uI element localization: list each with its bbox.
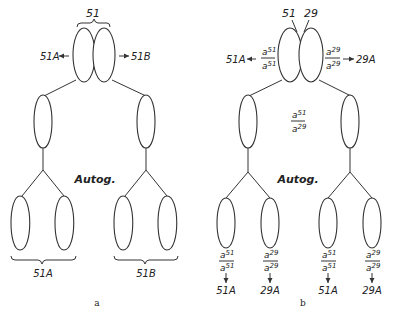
left-arrow-label: 51A [226,54,246,65]
top-cell-left [73,28,95,82]
middle-cell-left [239,95,257,148]
bottom-right-label: 51B [136,268,156,279]
top-label: 51 [86,7,100,20]
caption-b: b [300,298,306,308]
right-fraction-den: a29 [326,60,341,71]
bottom-cell-4 [363,198,381,248]
bottom-cell-4 [158,196,177,250]
top-cell-right [299,28,323,82]
svg-text:29A: 29A [362,285,382,296]
top-cell-right [93,28,115,82]
bottom-genotype-2: a29 a29 29A [260,249,280,296]
svg-text:a29: a29 [366,262,381,273]
left-arrow-label: 51A [40,51,60,62]
bottom-genotype-1: a51 a51 51A [216,249,236,296]
top-right-label: 29 [304,7,318,20]
diagram-figure: 51 51A 51B Autog. 51A 51B a [0,0,393,316]
right-fraction-num: a29 [326,46,341,57]
svg-text:a51: a51 [220,262,234,273]
svg-text:a29: a29 [366,249,381,260]
bottom-cell-2 [261,198,279,248]
top-cell-left [278,28,302,82]
bottom-cell-3 [319,198,337,248]
middle-cell-left [34,95,52,148]
bottom-genotype-3: a51 a51 51A [318,249,338,296]
svg-text:a51: a51 [322,262,336,273]
top-left-label: 51 [282,7,296,20]
middle-cell-right [341,95,359,148]
svg-text:51A: 51A [216,285,236,296]
left-fraction-num: a51 [262,46,276,57]
bottom-brace-right [114,256,178,264]
middle-fraction-num: a51 [292,109,306,120]
middle-fraction-den: a29 [292,123,307,134]
bottom-cell-3 [114,196,133,250]
bottom-cell-1 [217,198,235,248]
right-arrow-label: 29A [356,54,376,65]
svg-text:29A: 29A [260,285,280,296]
right-arrow-label: 51B [131,51,151,62]
panel-b: 51 29 a51 a51 51A a29 a29 29A a51 a29 Au… [216,7,382,308]
middle-cell-right [137,95,155,148]
panel-a: 51 51A 51B Autog. 51A 51B a [11,7,178,308]
svg-text:a51: a51 [322,249,336,260]
bottom-genotype-4: a29 a29 29A [362,249,382,296]
autog-label: Autog. [73,173,115,186]
svg-text:a51: a51 [220,249,234,260]
left-fraction-den: a51 [262,60,276,71]
bottom-cell-1 [11,196,30,250]
svg-text:51A: 51A [318,285,338,296]
top-brace [77,19,110,27]
bottom-left-label: 51A [33,268,53,279]
caption-a: a [94,298,100,308]
svg-text:a29: a29 [264,262,279,273]
autog-label: Autog. [276,173,318,186]
svg-text:a29: a29 [264,249,279,260]
bottom-cell-2 [55,196,74,250]
bottom-brace-left [11,256,76,264]
